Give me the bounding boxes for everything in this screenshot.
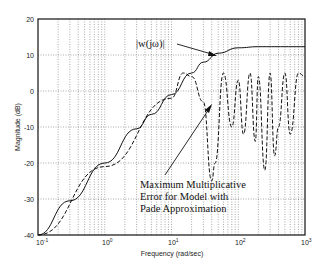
svg-text:101: 101 bbox=[168, 237, 179, 246]
y-tick-minus20: -20 bbox=[24, 160, 34, 167]
y-tick-minus40: -40 bbox=[24, 232, 34, 239]
svg-text:103: 103 bbox=[301, 237, 312, 246]
svg-text:102: 102 bbox=[235, 237, 246, 246]
x-tick-1e2: 102 bbox=[235, 237, 246, 246]
y-axis-label: Magnitude (dB) bbox=[14, 103, 22, 151]
annotation-error-line1: Maximum Multiplicative bbox=[140, 179, 246, 190]
annotation-weight-label: |w(jω)| bbox=[136, 38, 165, 50]
x-tick-1e0: 100 bbox=[102, 237, 113, 246]
x-tick-1e3: 103 bbox=[301, 237, 312, 246]
y-tick-20: 20 bbox=[26, 16, 34, 23]
annotation-error-line3: Pade Approximation bbox=[140, 203, 227, 214]
annotation-error-arrow bbox=[165, 106, 211, 175]
x-axis-label: Frequency (rad/sec) bbox=[141, 250, 204, 258]
svg-text:100: 100 bbox=[102, 237, 113, 246]
y-tick-0: 0 bbox=[30, 88, 34, 95]
svg-text:10-1: 10-1 bbox=[36, 237, 48, 246]
x-tick-1e-1: 10-1 bbox=[36, 237, 48, 246]
x-tick-1e1: 101 bbox=[168, 237, 179, 246]
y-tick-minus30: -30 bbox=[24, 196, 34, 203]
y-tick-minus10: -10 bbox=[24, 124, 34, 131]
bode-magnitude-chart: 20 10 0 -10 -20 -30 -40 10-1 100 101 102… bbox=[0, 0, 325, 267]
y-tick-10: 10 bbox=[26, 52, 34, 59]
annotation-error-line2: Error for Model with bbox=[140, 191, 229, 202]
